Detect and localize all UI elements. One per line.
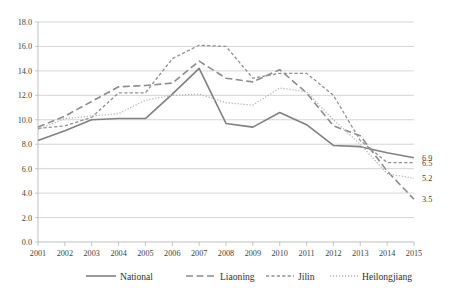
x-tick-label: 2012 bbox=[325, 249, 341, 258]
y-tick-label: 8.0 bbox=[22, 140, 32, 149]
series-line-jilin bbox=[38, 45, 414, 162]
x-tick-label: 2001 bbox=[30, 249, 46, 258]
x-tick-label: 2005 bbox=[137, 249, 153, 258]
y-tick-label: 16.0 bbox=[18, 42, 32, 51]
y-tick-label: 0.0 bbox=[22, 238, 32, 247]
x-tick-label: 2007 bbox=[191, 249, 207, 258]
x-tick-label: 2011 bbox=[299, 249, 315, 258]
x-tick-label: 2009 bbox=[245, 249, 261, 258]
end-label-liaoning: 3.5 bbox=[422, 195, 432, 204]
y-tick-label: 2.0 bbox=[22, 214, 32, 223]
y-tick-label: 6.0 bbox=[22, 165, 32, 174]
series-line-liaoning bbox=[38, 61, 414, 199]
y-tick-label: 14.0 bbox=[18, 67, 32, 76]
series-lines bbox=[38, 45, 414, 199]
axes bbox=[38, 22, 414, 242]
legend-label-heilongjiang: Heilongjiang bbox=[362, 271, 412, 282]
x-tick-label: 2002 bbox=[57, 249, 73, 258]
y-axis-tick-labels: 0.02.04.06.08.010.012.014.016.018.0 bbox=[18, 18, 32, 247]
x-tick-label: 2014 bbox=[379, 249, 395, 258]
y-tick-label: 4.0 bbox=[22, 189, 32, 198]
gridlines bbox=[35, 22, 414, 242]
end-label-jilin: 6.5 bbox=[422, 159, 432, 168]
x-axis-tick-marks bbox=[38, 242, 414, 246]
legend-label-national: National bbox=[120, 271, 153, 282]
series-line-heilongjiang bbox=[38, 88, 414, 178]
chart-legend: NationalLiaoningJilinHeilongjiang bbox=[86, 271, 412, 282]
end-label-heilongjiang: 5.2 bbox=[422, 174, 432, 183]
x-tick-label: 2006 bbox=[164, 249, 180, 258]
y-tick-label: 12.0 bbox=[18, 91, 32, 100]
x-tick-label: 2015 bbox=[406, 249, 422, 258]
x-axis-tick-labels: 2001200220032004200520062007200820092010… bbox=[30, 249, 422, 258]
y-tick-label: 18.0 bbox=[18, 18, 32, 27]
x-tick-label: 2008 bbox=[218, 249, 234, 258]
x-tick-label: 2013 bbox=[352, 249, 368, 258]
x-tick-label: 2003 bbox=[84, 249, 100, 258]
y-tick-label: 10.0 bbox=[18, 116, 32, 125]
legend-label-liaoning: Liaoning bbox=[220, 271, 255, 282]
legend-label-jilin: Jilin bbox=[298, 271, 315, 282]
chart-canvas: 0.02.04.06.08.010.012.014.016.018.0 2001… bbox=[0, 0, 452, 294]
line-chart: 0.02.04.06.08.010.012.014.016.018.0 2001… bbox=[0, 0, 452, 294]
x-tick-label: 2004 bbox=[110, 249, 126, 258]
series-end-labels: 6.93.56.55.2 bbox=[422, 154, 432, 205]
x-tick-label: 2010 bbox=[272, 249, 288, 258]
